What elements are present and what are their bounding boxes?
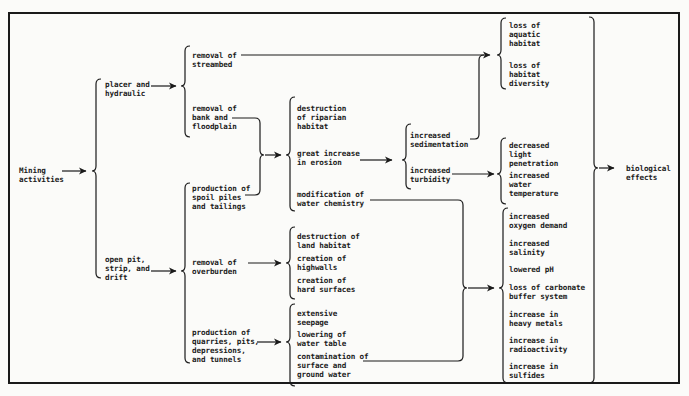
node-decreased-light-penetration: decreased light penetration	[509, 141, 558, 168]
node-placer-hydraulic: placer and hydraulic	[105, 80, 150, 98]
node-increased-turbidity: increased turbidity	[410, 166, 450, 184]
node-increase-radioactivity: increase in radioactivity	[509, 336, 567, 354]
node-open-pit-strip-drift: open pit, strip, and drift	[105, 255, 150, 282]
node-modification-water-chemistry: modification of water chemistry	[297, 190, 364, 208]
node-quarries-pits-tunnels: production of quarries, pits, depression…	[192, 328, 259, 364]
node-increase-erosion: great increase in erosion	[297, 149, 360, 167]
node-increased-salinity: increased salinity	[509, 239, 549, 257]
node-contamination-water: contamination of surface and ground wate…	[297, 352, 369, 379]
node-destruction-riparian: destruction of riparian habitat	[297, 104, 346, 131]
node-increase-heavy-metals: increase in heavy metals	[509, 310, 563, 328]
node-increased-water-temperature: increased water temperature	[509, 171, 558, 198]
node-creation-hard-surfaces: creation of hard surfaces	[297, 276, 355, 294]
node-biological-effects: biological effects	[626, 164, 671, 182]
node-extensive-seepage: extensive seepage	[297, 309, 337, 327]
node-loss-aquatic-habitat: loss of aquatic habitat	[509, 21, 540, 48]
node-lowered-ph: lowered pH	[509, 265, 554, 274]
node-lowering-water-table: lowering of water table	[297, 330, 346, 348]
node-increased-sedimentation: increased sedimentation	[410, 131, 468, 149]
node-creation-highwalls: creation of highwalls	[297, 254, 346, 272]
node-removal-bank-floodplain: removal of bank and floodplain	[192, 104, 237, 131]
node-destruction-land-habitat: destruction of land habitat	[297, 232, 360, 250]
node-spoil-piles-tailings: production of spoil piles and tailings	[192, 184, 250, 211]
node-increase-sulfides: increase in sulfides	[509, 362, 558, 380]
node-removal-streambed: removal of streambed	[192, 51, 237, 69]
node-loss-carbonate-buffer: loss of carbonate buffer system	[509, 283, 585, 301]
node-removal-overburden: removal of overburden	[192, 258, 237, 276]
node-mining-activities: Mining activities	[19, 166, 64, 184]
node-loss-habitat-diversity: loss of habitat diversity	[509, 61, 549, 88]
node-increased-oxygen-demand: increased oxygen demand	[509, 212, 567, 230]
